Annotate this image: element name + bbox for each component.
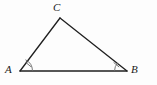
- vertex-label-a: A: [5, 64, 12, 75]
- geometry-figure: A B C: [0, 0, 157, 85]
- vertex-label-c: C: [53, 2, 60, 13]
- vertex-label-b: B: [131, 64, 138, 75]
